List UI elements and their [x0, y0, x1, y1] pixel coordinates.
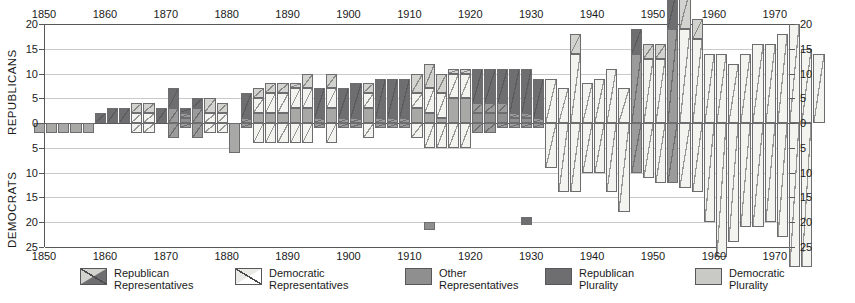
- bar-column-1957[interactable]: [692, 24, 703, 247]
- bar-column-1913[interactable]: [424, 24, 435, 247]
- bar-column-1935[interactable]: [558, 24, 569, 247]
- bar-seg-republican-1859: [95, 113, 106, 123]
- bar-seg-democratic-down-1955: [679, 123, 690, 187]
- bar-column-1975[interactable]: [801, 24, 812, 247]
- bar-seg-democratic-up-1885: [253, 98, 264, 113]
- bar-seg-democratic-up-1929: [521, 113, 532, 118]
- bar-column-1917[interactable]: [448, 24, 459, 247]
- bar-column-1951[interactable]: [655, 24, 666, 247]
- bar-column-1949[interactable]: [643, 24, 654, 247]
- bar-seg-democratic-up-1891: [290, 88, 301, 108]
- bar-column-1865[interactable]: [131, 24, 142, 247]
- x-tick-top-1870: 1870: [154, 8, 178, 20]
- bar-column-1955[interactable]: [679, 24, 690, 247]
- bar-column-1963[interactable]: [728, 24, 739, 247]
- bar-seg-democratic-up-1873: [180, 113, 191, 118]
- bar-column-1885[interactable]: [253, 24, 264, 247]
- bar-column-1861[interactable]: [107, 24, 118, 247]
- bar-column-1863[interactable]: [119, 24, 130, 247]
- bar-column-1869[interactable]: [156, 24, 167, 247]
- bar-column-1871[interactable]: [168, 24, 179, 247]
- bar-column-1973[interactable]: [789, 24, 800, 247]
- bar-column-1855[interactable]: [70, 24, 81, 247]
- bar-column-1877[interactable]: [204, 24, 215, 247]
- bar-seg-democratic-up-1915: [436, 93, 447, 118]
- bar-seg-democratic-down-1923: [484, 123, 495, 133]
- bar-seg-democratic-down-1895: [314, 123, 325, 128]
- legend-label-democratic-plurality: DemocraticPlurality: [729, 268, 785, 291]
- bar-column-1965[interactable]: [740, 24, 751, 247]
- bar-column-1851[interactable]: [46, 24, 57, 247]
- bar-column-1903[interactable]: [363, 24, 374, 247]
- bar-column-1919[interactable]: [460, 24, 471, 247]
- bar-column-1899[interactable]: [338, 24, 349, 247]
- bar-column-1893[interactable]: [302, 24, 313, 247]
- x-tick-bottom-1850: 1850: [32, 250, 56, 262]
- bar-seg-republican-1875: [192, 98, 203, 108]
- bar-column-1959[interactable]: [704, 24, 715, 247]
- bar-column-1923[interactable]: [484, 24, 495, 247]
- bar-column-1901[interactable]: [350, 24, 361, 247]
- bar-column-1907[interactable]: [387, 24, 398, 247]
- bar-column-1911[interactable]: [411, 24, 422, 247]
- y-tickmark-left--20: [39, 222, 44, 223]
- bar-column-1967[interactable]: [752, 24, 763, 247]
- bar-column-1943[interactable]: [606, 24, 617, 247]
- y-tick-left--20: 20: [14, 217, 38, 227]
- bar-column-1889[interactable]: [277, 24, 288, 247]
- bar-column-1879[interactable]: [217, 24, 228, 247]
- bar-seg-democratic-down-1883: [241, 123, 252, 128]
- bar-column-1961[interactable]: [716, 24, 727, 247]
- bar-column-1929[interactable]: [521, 24, 532, 247]
- bar-column-1897[interactable]: [326, 24, 337, 247]
- x-tick-bottom-1950: 1950: [641, 250, 665, 262]
- bar-seg-republican-1873: [180, 108, 191, 113]
- bar-column-1853[interactable]: [58, 24, 69, 247]
- legend-item-republican-representatives[interactable]: RepublicanRepresentatives: [80, 268, 194, 291]
- bar-column-1875[interactable]: [192, 24, 203, 247]
- y-tickmark-left--10: [39, 173, 44, 174]
- bar-column-1931[interactable]: [533, 24, 544, 247]
- bar-column-1883[interactable]: [241, 24, 252, 247]
- bar-seg-democratic-up-1971: [777, 34, 788, 123]
- bar-seg-republican-1931: [533, 79, 544, 119]
- bar-column-1953[interactable]: [667, 24, 678, 247]
- bar-seg-democratic-up-1955: [679, 29, 690, 123]
- bar-seg-other-down-1881: [229, 123, 240, 153]
- bar-column-1947[interactable]: [631, 24, 642, 247]
- bar-column-1939[interactable]: [582, 24, 593, 247]
- legend-item-republican-plurality[interactable]: RepublicanPlurality: [545, 268, 634, 291]
- bar-column-1977[interactable]: [813, 24, 824, 247]
- bar-column-1849[interactable]: [34, 24, 45, 247]
- bar-seg-democratic-up-1871: [168, 108, 179, 123]
- bar-column-1933[interactable]: [545, 24, 556, 247]
- bar-column-1909[interactable]: [399, 24, 410, 247]
- y-tick-right-10: 10: [800, 69, 824, 79]
- bar-column-1969[interactable]: [765, 24, 776, 247]
- legend-item-other-representatives[interactable]: OtherRepresentatives: [405, 268, 519, 291]
- bar-column-1927[interactable]: [509, 24, 520, 247]
- bar-column-1921[interactable]: [472, 24, 483, 247]
- bar-column-1867[interactable]: [143, 24, 154, 247]
- bar-column-1859[interactable]: [95, 24, 106, 247]
- bar-column-1891[interactable]: [290, 24, 301, 247]
- bar-column-1887[interactable]: [265, 24, 276, 247]
- legend-item-democratic-plurality[interactable]: DemocraticPlurality: [695, 268, 785, 291]
- legend-item-democratic-representatives[interactable]: DemocraticRepresentatives: [235, 268, 349, 291]
- bar-column-1873[interactable]: [180, 24, 191, 247]
- bar-column-1881[interactable]: [229, 24, 240, 247]
- legend-label-other-representatives: OtherRepresentatives: [439, 268, 519, 291]
- bar-column-1915[interactable]: [436, 24, 447, 247]
- legend-swatch-republican-representatives: [80, 268, 107, 285]
- bar-seg-democratic-down-1905: [375, 123, 386, 128]
- bar-column-1937[interactable]: [570, 24, 581, 247]
- bar-column-1945[interactable]: [618, 24, 629, 247]
- bar-column-1941[interactable]: [594, 24, 605, 247]
- bar-column-1971[interactable]: [777, 24, 788, 247]
- x-tick-bottom-1860: 1860: [93, 250, 117, 262]
- bar-column-1905[interactable]: [375, 24, 386, 247]
- bar-column-1925[interactable]: [497, 24, 508, 247]
- y-tickmark-left-0: [39, 123, 44, 124]
- bar-column-1895[interactable]: [314, 24, 325, 247]
- bar-column-1857[interactable]: [83, 24, 94, 247]
